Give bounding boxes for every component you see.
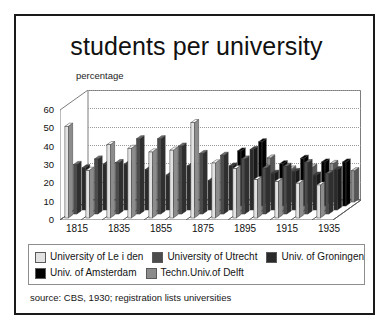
legend-swatch-icon (35, 268, 46, 279)
page-title: students per university (16, 32, 377, 61)
x-tick-label: 1935 (318, 224, 340, 234)
y-tick-label: 20 (34, 178, 54, 188)
legend-item[interactable]: University of Le i den (35, 252, 143, 263)
x-tick-label: 1875 (192, 224, 214, 234)
chart-page: students per university percentage (0, 0, 389, 329)
legend-row: Univ. of AmsterdamTechn.Univ.of Delft (35, 265, 359, 281)
legend-item[interactable]: University of Utrecht (152, 252, 257, 263)
legend-item[interactable]: Techn.Univ.of Delft (146, 268, 244, 279)
legend-swatch-icon (266, 252, 277, 263)
legend-row: University of Le i denUniversity of Utre… (35, 249, 359, 265)
legend-swatch-icon (152, 252, 163, 263)
x-tick-label: 1915 (276, 224, 298, 234)
chart-canvas: percentage 0102030405060 1815183 (32, 70, 361, 238)
legend-item[interactable]: Univ. of Groningen (266, 252, 364, 263)
y-tick-label: 50 (34, 123, 54, 133)
source-note: source: CBS, 1930; registration lists un… (30, 292, 231, 303)
legend-item[interactable]: Univ. of Amsterdam (35, 268, 137, 279)
x-tick-label: 1835 (108, 224, 130, 234)
legend-swatch-icon (35, 252, 46, 263)
legend-item-label: University of Le i den (50, 252, 143, 262)
plot-area (60, 90, 361, 220)
y-tick-label: 0 (34, 215, 54, 225)
x-tick-label: 1855 (150, 224, 172, 234)
y-tick-label: 10 (34, 197, 54, 207)
y-tick-label: 30 (34, 160, 54, 170)
y-tick-label: 40 (34, 142, 54, 152)
y-tick-label: 60 (34, 105, 54, 115)
x-tick-label: 1815 (66, 224, 88, 234)
x-tick-label: 1895 (234, 224, 256, 234)
legend-item-label: Univ. of Amsterdam (50, 268, 137, 278)
y-axis-title: percentage (76, 70, 124, 81)
legend-item-label: Techn.Univ.of Delft (161, 268, 244, 278)
legend-swatch-icon (146, 268, 157, 279)
legend-item-label: University of Utrecht (167, 252, 257, 262)
chart-legend: University of Le i denUniversity of Utre… (28, 244, 365, 285)
legend-item-label: Univ. of Groningen (281, 252, 364, 262)
chart-frame: students per university percentage (14, 14, 375, 315)
